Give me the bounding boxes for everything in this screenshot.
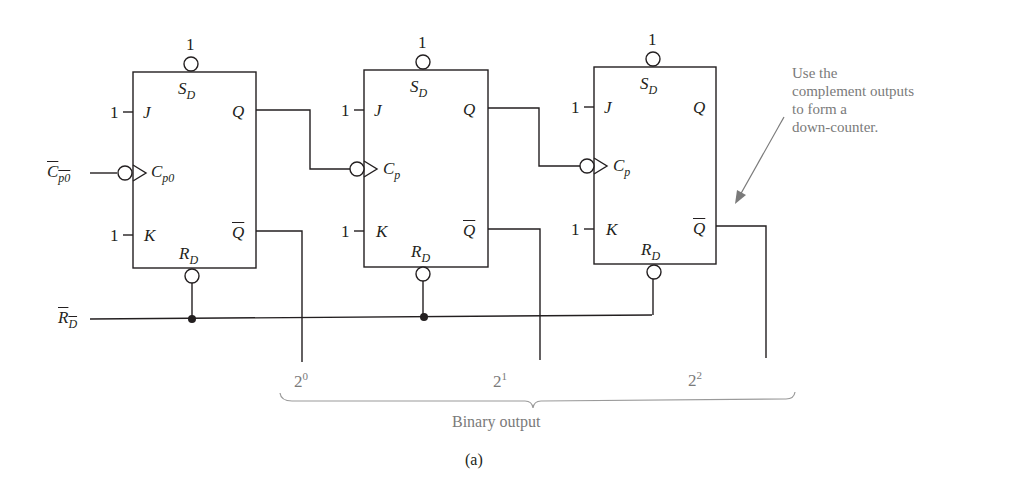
ff1-clock-label: Cp [383, 160, 400, 177]
ff1-qbar-label: Q [463, 222, 475, 239]
clock-bubble-0 [118, 166, 132, 180]
clock-bubble-2 [580, 159, 594, 173]
figure-caption: (a) [465, 452, 483, 468]
annotation-line-1: Use the [792, 64, 914, 82]
ff0-k-label: K [144, 227, 155, 244]
rd-bubble-2 [647, 265, 661, 279]
rd-bubble-0 [185, 269, 199, 283]
annotation-line-3: to form a [792, 100, 914, 118]
annotation-line-2: complement outputs [792, 82, 914, 100]
ff2-rd-label: RD [641, 241, 660, 258]
ff0-clock-label: Cp0 [151, 163, 174, 180]
wire-q1-to-clk2 [488, 108, 580, 166]
output-label-bit0: 20 [294, 373, 308, 390]
wire-q0-to-clk1 [256, 110, 350, 169]
ff2-j-value: 1 [571, 99, 580, 116]
ff1-j-value: 1 [341, 102, 350, 119]
ff0-sd-value: 1 [186, 36, 195, 53]
ff2-sd-label: SD [640, 75, 657, 92]
ff1-rd-label: RD [411, 243, 430, 260]
clock-input-label: Cp0 [47, 163, 70, 180]
junction-dot-1 [420, 313, 428, 321]
ff0-j-value: 1 [110, 104, 119, 121]
counter-diagram: Cp0 RD 1 SD 1 J Cp0 1 K Q Q RD 1 SD 1 J … [0, 0, 1011, 492]
ff1-j-label: J [374, 102, 382, 119]
ff1-sd-value: 1 [418, 34, 427, 51]
output-label-bit1: 21 [493, 373, 507, 390]
ff2-q-label: Q [693, 99, 705, 116]
sd-bubble-2 [646, 52, 660, 66]
clock-triangle-1 [364, 161, 377, 177]
ff1-k-label: K [376, 223, 387, 240]
ff2-qbar-label: Q [693, 220, 705, 237]
ff1-sd-label: SD [410, 78, 427, 95]
annotation-arrow-head [735, 190, 746, 204]
wire-reset-bus [90, 315, 652, 319]
annotation-arrow-line [739, 117, 784, 197]
wire-out-0 [256, 231, 302, 362]
clock-triangle-0 [133, 165, 146, 181]
ff2-clock-label: Cp [613, 157, 630, 174]
binary-output-label: Binary output [452, 414, 540, 430]
junction-dot-0 [188, 315, 196, 323]
ff1-q-label: Q [463, 101, 475, 118]
ff2-k-value: 1 [571, 221, 580, 238]
ff1-k-value: 1 [341, 223, 350, 240]
ff0-q-label: Q [232, 103, 244, 120]
ff0-k-value: 1 [110, 227, 119, 244]
annotation-line-4: down-counter. [792, 118, 914, 136]
sd-bubble-1 [416, 55, 430, 69]
ff0-sd-label: SD [178, 80, 195, 97]
sd-bubble-0 [184, 57, 198, 71]
ff0-qbar-label: Q [232, 224, 244, 241]
binary-output-brace [280, 392, 795, 408]
ff2-k-label: K [606, 221, 617, 238]
rd-bubble-1 [416, 267, 430, 281]
reset-input-label: RD [58, 309, 77, 326]
clock-bubble-1 [350, 162, 364, 176]
wire-out-2 [716, 226, 766, 358]
wire-out-1 [488, 229, 540, 360]
annotation-note: Use the complement outputs to form a dow… [792, 64, 914, 136]
ff2-j-label: J [604, 99, 612, 116]
ff0-j-label: J [143, 104, 151, 121]
output-label-bit2: 22 [688, 372, 702, 389]
ff0-rd-label: RD [179, 245, 198, 262]
ff2-sd-value: 1 [648, 31, 657, 48]
clock-triangle-2 [594, 158, 607, 174]
